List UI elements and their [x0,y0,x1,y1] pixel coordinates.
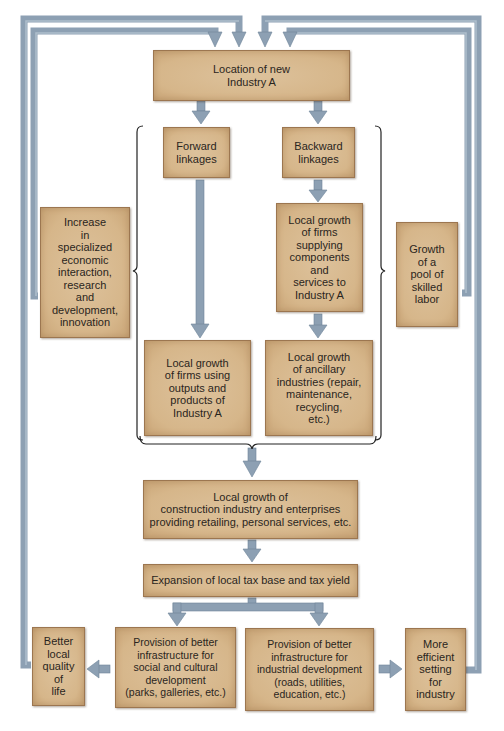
location-of-new-industry-box: Location of new Industry A [153,50,350,101]
local-growth-outputs-box: Local growth of firms using outputs and … [144,340,251,436]
local-growth-ancillary-box: Local growth of ancillary industries (re… [265,340,373,436]
growth-skilled-labor-box: Growth of a pool of skilled labor [396,222,458,327]
local-growth-supplying-box: Local growth of firms supplying componen… [276,203,363,312]
left-brace [133,126,143,440]
increase-specialized-interaction-box: Increase in specialized economic interac… [40,207,130,338]
industrial-infrastructure-box: Provision of better infrastructure for i… [245,628,374,711]
backward-linkages-box: Backward linkages [282,127,355,178]
bottom-brace [140,436,376,449]
better-quality-of-life-box: Better local quality of life [32,627,85,706]
efficient-setting-box: More efficient setting for industry [405,628,466,711]
expansion-tax-base-box: Expansion of local tax base and tax yiel… [143,564,358,597]
local-growth-construction-box: Local growth of construction industry an… [143,480,358,539]
social-cultural-infrastructure-box: Provision of better infrastructure for s… [115,627,236,708]
connector-layer [0,0,504,731]
right-brace [375,126,385,440]
forward-linkages-box: Forward linkages [163,127,230,178]
